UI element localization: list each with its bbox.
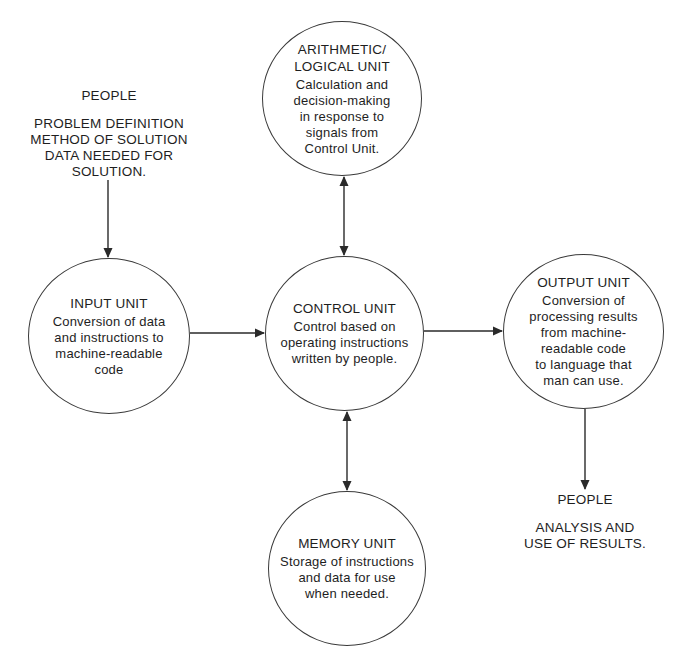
node-input-unit: INPUT UNIT Conversion of data and instru… — [28, 258, 190, 414]
people-input-body: PROBLEM DEFINITION METHOD OF SOLUTION DA… — [20, 116, 198, 180]
node-control-unit: CONTROL UNIT Control based on operating … — [265, 256, 424, 411]
alu-title: ARITHMETIC/ LOGICAL UNIT — [294, 41, 390, 75]
input-unit-title: INPUT UNIT — [70, 295, 148, 312]
memory-unit-description: Storage of instructions and data for use… — [280, 554, 414, 602]
node-arithmetic-logical-unit: ARITHMETIC/ LOGICAL UNIT Calculation and… — [262, 21, 422, 176]
node-output-unit: OUTPUT UNIT Conversion of processing res… — [503, 254, 664, 409]
control-unit-description: Control based on operating instructions … — [281, 319, 409, 367]
control-unit-title: CONTROL UNIT — [293, 300, 396, 317]
output-unit-title: OUTPUT UNIT — [537, 274, 630, 291]
memory-unit-title: MEMORY UNIT — [298, 535, 396, 552]
people-input-label: PEOPLE PROBLEM DEFINITION METHOD OF SOLU… — [20, 88, 198, 180]
people-input-title: PEOPLE — [20, 88, 198, 104]
input-unit-description: Conversion of data and instructions to m… — [53, 314, 166, 378]
people-output-body: ANALYSIS AND USE OF RESULTS. — [520, 520, 650, 552]
people-output-label: PEOPLE ANALYSIS AND USE OF RESULTS. — [520, 492, 650, 552]
node-memory-unit: MEMORY UNIT Storage of instructions and … — [268, 491, 426, 646]
alu-description: Calculation and decision-making in respo… — [294, 77, 391, 157]
people-output-title: PEOPLE — [520, 492, 650, 508]
output-unit-description: Conversion of processing results from ma… — [529, 293, 637, 389]
